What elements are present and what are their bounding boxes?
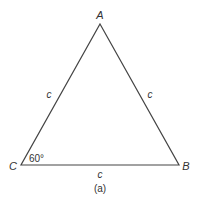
triangle-diagram: A C B 60° c c c (a) bbox=[0, 0, 198, 204]
triangle-shape bbox=[21, 24, 179, 165]
figure-caption: (a) bbox=[94, 183, 106, 194]
side-label-ca: c bbox=[47, 89, 52, 100]
vertex-label-c: C bbox=[9, 160, 17, 172]
side-label-cb: c bbox=[98, 169, 103, 180]
vertex-label-b: B bbox=[182, 160, 189, 172]
vertex-label-a: A bbox=[95, 9, 103, 21]
angle-c-label: 60° bbox=[29, 153, 44, 164]
side-label-ab: c bbox=[148, 89, 153, 100]
